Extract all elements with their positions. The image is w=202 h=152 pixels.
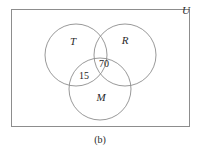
set-label-r: R — [121, 34, 129, 46]
region-value-t-and-m: 15 — [79, 70, 89, 81]
region-value-triple-intersection: 70 — [99, 58, 109, 69]
universal-set-label: U — [182, 4, 191, 16]
set-label-m: M — [95, 91, 106, 103]
set-label-t: T — [70, 35, 77, 47]
set-circle-t — [45, 24, 107, 86]
venn-diagram-canvas: U T R M 70 15 (b) — [0, 0, 202, 152]
figure-caption: (b) — [94, 134, 106, 146]
venn-diagram-figure: U T R M 70 15 (b) — [0, 0, 202, 152]
